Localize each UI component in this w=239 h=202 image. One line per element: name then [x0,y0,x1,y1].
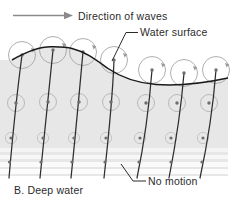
particle-dot [46,100,49,103]
particle-dot [138,136,141,139]
particle-dot-no-motion [137,160,140,163]
fade-band [0,148,239,152]
particle-dot [104,136,107,139]
particle-dot [144,101,147,104]
fade-band [0,169,239,174]
fade-band [0,155,239,159]
particle-dot [51,48,54,51]
particle-dot [77,100,80,103]
particle-dot [182,71,185,74]
particle-dot-no-motion [70,160,73,163]
particle-dot-no-motion [8,160,11,163]
particle-dot [14,101,17,104]
particle-dot [9,136,12,139]
particle-dot [201,136,204,139]
particle-dot-no-motion [200,160,203,163]
particle-dot [175,101,178,104]
particle-dot-no-motion [103,160,106,163]
particle-dot-no-motion [39,160,42,163]
particle-dot [41,136,44,139]
particle-dot [150,68,153,71]
particle-dot-no-motion [169,160,172,163]
particle-dot [207,101,210,104]
particle-dot [169,136,172,139]
particle-dot [109,100,112,103]
direction-of-waves-label: Direction of waves [78,10,167,22]
figure-caption: B. Deep water [14,184,83,196]
deep-water-wave-diagram: Direction of waves Water surface No moti… [0,0,239,202]
particle-dot [214,68,217,71]
no-motion-label: No motion [148,175,198,187]
particle-dot [72,136,75,139]
water-surface-label: Water surface [140,26,208,38]
